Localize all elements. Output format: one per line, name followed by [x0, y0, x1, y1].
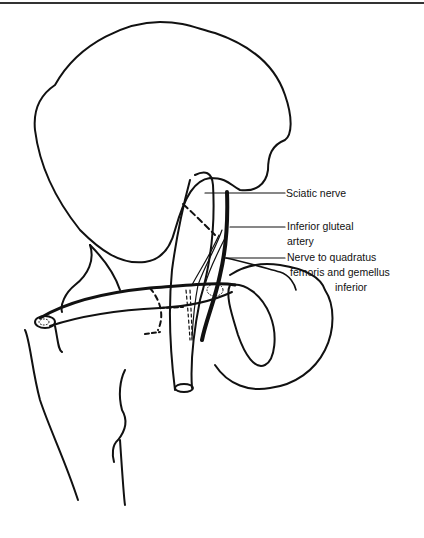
- ligament-band-bottom: [50, 292, 232, 326]
- femur-outline-right: [113, 370, 126, 462]
- label-nerve-to-quadratus: Nerve to quadratus femoris and gemellus …: [287, 250, 390, 295]
- femur-outline-left: [25, 330, 78, 500]
- nerve-dashed-2: [186, 290, 190, 340]
- femur-inner: [120, 440, 125, 505]
- ilium-outline: [35, 22, 291, 262]
- tube-end: [175, 384, 193, 392]
- dashed-segment-3: [145, 332, 160, 334]
- label-quadratus-line-2: femoris and gemellus: [287, 265, 390, 280]
- obturator-outline: [228, 285, 274, 366]
- label-artery-line-2: artery: [287, 234, 354, 249]
- label-quadratus-line-3: inferior: [287, 280, 390, 295]
- ligament-left-end: [35, 316, 55, 328]
- label-sciatic-nerve: Sciatic nerve: [286, 186, 346, 201]
- stipple-left: [39, 319, 49, 325]
- label-quadratus-line-1: Nerve to quadratus: [287, 250, 390, 265]
- nerve-dashed-1: [190, 290, 192, 340]
- label-sciatic-nerve-text: Sciatic nerve: [286, 187, 346, 199]
- label-artery-line-1: Inferior gluteal: [287, 219, 354, 234]
- label-inferior-gluteal-artery: Inferior gluteal artery: [287, 219, 354, 249]
- dashed-crossing: [183, 204, 215, 235]
- tubercle-line: [55, 326, 62, 352]
